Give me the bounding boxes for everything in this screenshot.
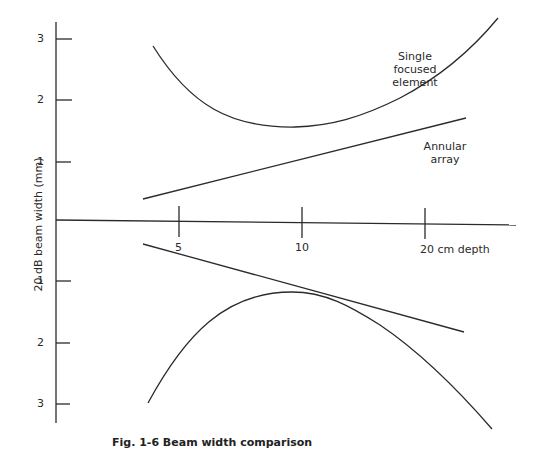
- annular-label-line2: array: [415, 153, 475, 166]
- x-tick-label-20-depth: 20 cm depth: [420, 244, 490, 256]
- y-tick-label-upper-3: 3: [32, 32, 44, 45]
- single-focused-label-line3: element: [385, 76, 445, 89]
- y-tick-label-lower-3: 3: [32, 397, 44, 410]
- x-tick-label-5: 5: [175, 242, 182, 254]
- annular-array-label: Annular array: [415, 140, 475, 166]
- y-tick-label-upper-2: 2: [32, 93, 44, 106]
- annular-array-line-lower: [143, 244, 464, 332]
- single-focused-curve-upper: [153, 18, 498, 127]
- single-focused-label-line1: Single: [385, 50, 445, 63]
- figure-caption: Fig. 1-6 Beam width comparison: [112, 436, 312, 449]
- x-tick-label-10: 10: [295, 242, 309, 254]
- single-focused-label-line2: focused: [385, 63, 445, 76]
- single-focused-curve-lower: [148, 292, 492, 429]
- y-axis-label: 20 dB beam width (mm): [32, 155, 45, 295]
- y-tick-label-lower-2: 2: [32, 336, 44, 349]
- single-focused-element-label: Single focused element: [385, 50, 445, 89]
- x-axis-line: [56, 220, 516, 225]
- annular-label-line1: Annular: [415, 140, 475, 153]
